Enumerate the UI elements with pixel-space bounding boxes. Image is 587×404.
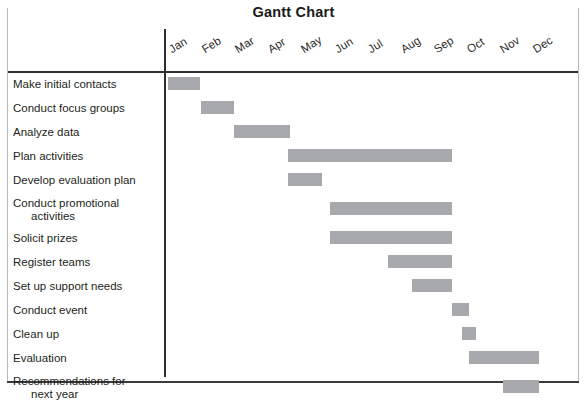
gantt-bar[interactable]	[288, 173, 322, 186]
task-row[interactable]: Set up support needs	[0, 275, 587, 299]
task-label: Conduct focus groups	[13, 97, 159, 115]
task-row[interactable]: Make initial contacts	[0, 73, 587, 97]
task-label: Recommendations fornext year	[13, 371, 159, 401]
task-label: Solicit prizes	[13, 227, 159, 245]
month-label-feb: Feb	[200, 34, 223, 55]
month-label-apr: Apr	[266, 35, 288, 55]
task-label-line2: activities	[13, 210, 159, 223]
gantt-bar[interactable]	[503, 380, 539, 393]
task-rows: Make initial contactsConduct focus group…	[0, 73, 587, 404]
task-row[interactable]: Solicit prizes	[0, 227, 587, 251]
task-row[interactable]: Conduct promotionalactivities	[0, 193, 587, 227]
month-label-jul: Jul	[365, 37, 384, 55]
task-label: Plan activities	[13, 145, 159, 163]
page-title: Gantt Chart	[0, 4, 587, 20]
task-row[interactable]: Clean up	[0, 323, 587, 347]
task-row[interactable]: Conduct focus groups	[0, 97, 587, 121]
task-row[interactable]: Develop evaluation plan	[0, 169, 587, 193]
gantt-bar[interactable]	[201, 101, 234, 114]
gantt-bar[interactable]	[462, 327, 476, 340]
task-label: Evaluation	[13, 347, 159, 365]
gantt-bar[interactable]	[452, 303, 469, 316]
task-row[interactable]: Evaluation	[0, 347, 587, 371]
task-label: Analyze data	[13, 121, 159, 139]
gantt-bar[interactable]	[412, 279, 452, 292]
month-label-sep: Sep	[432, 34, 456, 55]
task-label-line1: Recommendations for	[13, 375, 126, 387]
gantt-bar[interactable]	[330, 231, 452, 244]
task-row[interactable]: Register teams	[0, 251, 587, 275]
task-label: Clean up	[13, 323, 159, 341]
task-label: Develop evaluation plan	[13, 169, 159, 187]
task-label: Register teams	[13, 251, 159, 269]
task-row[interactable]: Plan activities	[0, 145, 587, 169]
gantt-bar[interactable]	[469, 351, 539, 364]
month-label-jan: Jan	[167, 35, 189, 55]
gantt-bar[interactable]	[388, 255, 452, 268]
task-label: Make initial contacts	[13, 73, 159, 91]
gantt-bar[interactable]	[288, 149, 452, 162]
month-label-nov: Nov	[498, 34, 522, 55]
month-label-dec: Dec	[531, 34, 555, 55]
gantt-bar[interactable]	[234, 125, 290, 138]
gantt-bar[interactable]	[330, 202, 452, 215]
month-label-oct: Oct	[465, 35, 487, 55]
month-label-may: May	[299, 33, 324, 55]
task-row[interactable]: Analyze data	[0, 121, 587, 145]
gantt-bar[interactable]	[168, 77, 200, 90]
task-row[interactable]: Conduct event	[0, 299, 587, 323]
task-row[interactable]: Recommendations fornext year	[0, 371, 587, 404]
task-label: Set up support needs	[13, 275, 159, 293]
task-label: Conduct event	[13, 299, 159, 317]
month-label-jun: Jun	[332, 35, 354, 55]
task-label: Conduct promotionalactivities	[13, 193, 159, 223]
task-label-line2: next year	[13, 388, 159, 401]
month-label-mar: Mar	[233, 34, 256, 55]
month-label-aug: Aug	[399, 34, 423, 55]
task-label-line1: Conduct promotional	[13, 197, 119, 209]
